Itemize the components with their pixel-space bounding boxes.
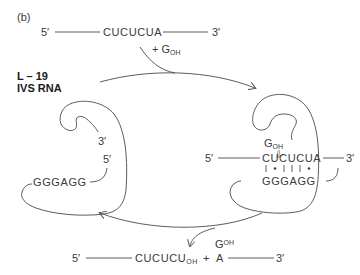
products: 5′ CUCUCUOH + GOH A 3′ (72, 238, 284, 265)
substrate: 5′ CUCUCUA 3′ + GOH (41, 26, 220, 56)
product2-base: A (216, 252, 224, 264)
product2-g-label: GOH (215, 238, 234, 250)
complex-guide-tail (326, 168, 338, 181)
release-arrow (100, 213, 262, 227)
complex-guide-sequence: GGGAGG (262, 175, 316, 187)
cofactor-label: + GOH (152, 43, 181, 56)
product-plus: + (203, 252, 209, 264)
binding-arrow (100, 73, 255, 88)
enzyme-5prime-tail (90, 168, 107, 182)
complex-3prime: 3′ (346, 152, 354, 164)
enzyme-label-line2: IVS RNA (17, 82, 62, 94)
product-5prime: 5′ (72, 252, 80, 264)
complex-5prime: 5′ (205, 152, 213, 164)
substrate-3prime: 3′ (212, 26, 220, 38)
product1-sequence: CUCUCUOH (135, 252, 198, 265)
enzyme-5prime: 5′ (103, 153, 111, 165)
complex-g-label: GOH (264, 137, 283, 150)
substrate-sequence: CUCUCUA (103, 26, 162, 38)
substrate-5prime: 5′ (41, 26, 49, 38)
panel-label: (b) (17, 11, 30, 23)
ribozyme-reaction-diagram: (b) 5′ CUCUCUA 3′ + GOH L – 19 IVS RNA 3… (0, 0, 360, 275)
product-exit-arrow (190, 228, 215, 246)
base-pairing (266, 165, 310, 172)
free-enzyme: 3′ 5′ GGGAGG (22, 101, 127, 215)
enzyme-label-line1: L – 19 (17, 70, 48, 82)
enzyme-substrate-complex: GOH 5′ CUCUCUA 3′ GGGAGG (205, 94, 354, 213)
enzyme-3prime: 3′ (98, 135, 106, 147)
enzyme-guide-sequence: GGGAGG (33, 176, 87, 188)
complex-substrate-sequence: CUCUCUA (262, 152, 321, 164)
product-3prime: 3′ (276, 252, 284, 264)
